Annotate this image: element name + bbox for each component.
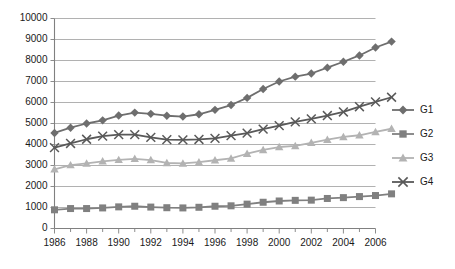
y-tick-label: 3000 [25,159,48,170]
x-tick-label: 1986 [43,237,66,248]
legend-label: G2 [420,128,434,139]
line-chart: 0100020003000400050006000700080009000100… [0,0,455,269]
marker-diamond [371,43,379,51]
marker-diamond [82,119,90,127]
marker-square [115,203,122,210]
x-tick-label: 1996 [204,237,227,248]
y-tick-label: 9000 [25,33,48,44]
marker-diamond [243,94,251,102]
y-tick-label: 0 [42,222,48,233]
y-tick-label: 5000 [25,117,48,128]
legend-item-G2[interactable]: G2 [392,128,434,139]
marker-square [276,197,283,204]
marker-diamond [387,37,395,45]
y-axis-tick-labels: 0100020003000400050006000700080009000100… [20,12,48,233]
marker-diamond [339,58,347,66]
marker-square [388,190,395,197]
y-tick-label: 6000 [25,96,48,107]
legend-item-G3[interactable]: G3 [392,152,434,163]
marker-diamond [50,129,58,137]
marker-diamond [323,63,331,71]
marker-square [356,193,363,200]
marker-square [163,204,170,211]
marker-square [131,203,138,210]
marker-square [212,203,219,210]
marker-square [244,201,251,208]
marker-square [260,199,267,206]
marker-diamond [163,112,171,120]
x-tick-label: 2006 [364,237,387,248]
y-tick-marks [51,19,55,229]
series-G2 [51,190,395,213]
chart-legend: G1G2G3G4 [392,104,434,187]
y-tick-label: 4000 [25,138,48,149]
legend-label: G4 [420,176,434,187]
marker-diamond [211,106,219,114]
marker-square [99,204,106,211]
marker-square [195,204,202,211]
marker-diamond [195,110,203,118]
chart-container: 0100020003000400050006000700080009000100… [0,0,455,269]
y-tick-label: 10000 [20,12,48,23]
marker-diamond [307,69,315,77]
x-tick-label: 1990 [108,237,131,248]
marker-square [324,195,331,202]
x-tick-label: 1992 [140,237,163,248]
x-tick-label: 2000 [268,237,291,248]
marker-square [179,204,186,211]
marker-square [51,206,58,213]
marker-square [292,197,299,204]
marker-diamond [399,106,408,115]
series-G1 [50,37,395,137]
x-tick-label: 1998 [236,237,259,248]
marker-diamond [179,112,187,120]
legend-item-G1[interactable]: G1 [392,104,434,115]
marker-triangle [387,125,395,132]
legend-label: G1 [420,104,434,115]
x-tick-label: 1994 [172,237,195,248]
marker-diamond [275,77,283,85]
marker-diamond [131,108,139,116]
y-tick-label: 1000 [25,201,48,212]
marker-square [67,205,74,212]
marker-square [308,197,315,204]
marker-square [83,205,90,212]
x-tick-label: 2004 [332,237,355,248]
x-tick-label: 1988 [75,237,98,248]
marker-square [340,194,347,201]
marker-diamond [147,110,155,118]
y-tick-label: 8000 [25,54,48,65]
marker-square [228,202,235,209]
legend-item-G4[interactable]: G4 [392,176,434,187]
marker-square [399,130,406,137]
marker-diamond [259,85,267,93]
marker-square [147,204,154,211]
y-tick-label: 2000 [25,180,48,191]
marker-diamond [66,124,74,132]
x-axis-tick-labels: 1986198819901992199419961998200020022004… [43,237,387,248]
x-tick-marks [55,229,376,234]
marker-diamond [355,51,363,59]
marker-square [372,192,379,199]
marker-diamond [291,72,299,80]
x-tick-label: 2002 [300,237,323,248]
legend-label: G3 [420,152,434,163]
y-tick-label: 7000 [25,75,48,86]
marker-diamond [115,111,123,119]
